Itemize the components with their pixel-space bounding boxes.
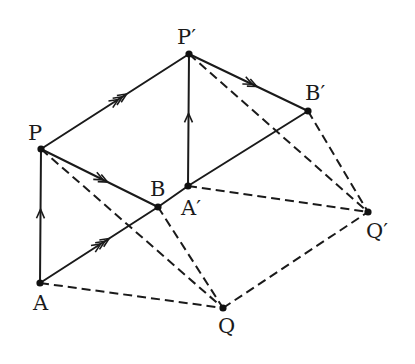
label-Q: Q xyxy=(218,314,235,338)
dashed-edge-Q-Q-prime xyxy=(223,212,368,308)
point-B-prime xyxy=(304,107,311,114)
point-P xyxy=(37,145,44,152)
label-P: P xyxy=(28,121,42,145)
point-labels: P P′ B A′ B′ A Q Q′ xyxy=(28,25,388,338)
point-Q-prime xyxy=(364,208,371,215)
diagram-canvas: P P′ B A′ B′ A Q Q′ xyxy=(0,0,415,364)
label-Q-prime: Q′ xyxy=(366,219,388,243)
edge-P-P-prime xyxy=(41,54,189,149)
point-A-prime xyxy=(184,182,191,189)
edge-A-B xyxy=(40,207,158,283)
point-A xyxy=(36,279,43,286)
label-B-prime: B′ xyxy=(305,81,325,105)
edge-A-prime-B-prime xyxy=(188,111,308,186)
point-P-prime xyxy=(185,50,192,57)
label-P-prime: P′ xyxy=(177,25,196,49)
dashed-edge-A-prime-Q-prime xyxy=(188,186,368,212)
point-Q xyxy=(219,304,226,311)
label-A-prime: A′ xyxy=(180,196,201,220)
dashed-edge-P-prime-Q-prime xyxy=(189,54,368,212)
edge-P-B xyxy=(41,149,158,207)
dashed-edge-B-Q xyxy=(158,207,223,308)
dashed-edge-B-prime-Q-prime xyxy=(308,111,368,212)
dashed-edge-P-Q xyxy=(41,149,223,308)
edge-A-prime-P-prime xyxy=(188,54,189,186)
edge-P-prime-B-prime xyxy=(189,54,308,111)
point-B xyxy=(154,203,161,210)
label-A: A xyxy=(32,291,49,315)
solid-edges xyxy=(40,54,308,283)
dashed-edge-A-Q xyxy=(40,283,223,308)
label-B: B xyxy=(150,177,165,201)
edge-A-P xyxy=(40,149,41,283)
